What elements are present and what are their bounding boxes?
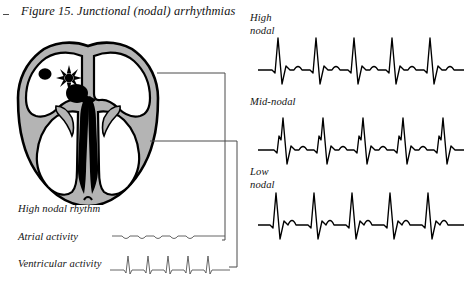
label-atrial-activity: Atrial activity: [18, 231, 78, 242]
sa-node-icon: [39, 68, 52, 80]
ecg-strip-mid-nodal: [258, 110, 464, 172]
heart-cross-section: [12, 40, 164, 205]
trace-ventricular-activity: [110, 252, 232, 280]
strip-label-mid-nodal: Mid-nodal: [250, 96, 296, 109]
trace-atrial-activity: [112, 228, 230, 246]
bracket-atrial: [157, 73, 225, 240]
figure-container: Figure 15. Junctional (nodal) arrhythmia…: [0, 0, 469, 286]
ecg-strip-low-nodal: [258, 185, 464, 247]
label-ventricular-activity: Ventricular activity: [18, 258, 102, 269]
figure-title: Figure 15. Junctional (nodal) arrhythmia…: [21, 4, 236, 20]
label-high-nodal-rhythm: High nodal rhythm: [18, 203, 100, 214]
ecg-strip-high-nodal: [258, 30, 464, 92]
bullet-dash: [3, 14, 9, 15]
